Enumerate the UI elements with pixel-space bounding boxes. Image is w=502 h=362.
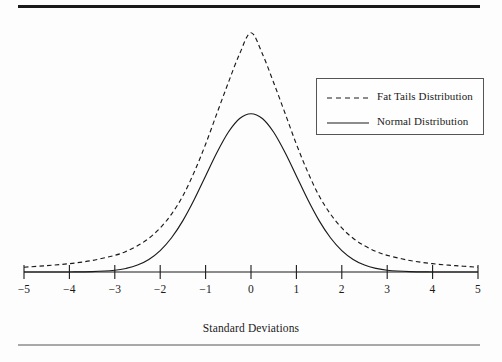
x-axis-tick-label: 1 bbox=[283, 283, 309, 295]
x-axis-tick-label: 0 bbox=[238, 283, 264, 295]
distribution-plot bbox=[0, 0, 502, 362]
legend-label-fat-tails: Fat Tails Distribution bbox=[377, 90, 473, 102]
x-axis-tick-label: 2 bbox=[329, 283, 355, 295]
legend-item: Fat Tails Distribution bbox=[317, 84, 485, 108]
legend-swatch-solid bbox=[326, 115, 370, 127]
x-axis-tick-label: −1 bbox=[193, 283, 219, 295]
curve-fat-tails-distribution bbox=[24, 33, 478, 268]
figure-container: −5−4−3−2−1012345 Standard Deviations Fat… bbox=[0, 0, 502, 362]
x-axis-tick-label: 5 bbox=[465, 283, 491, 295]
bottom-divider-rule bbox=[18, 344, 480, 346]
x-axis-tick-label: −2 bbox=[147, 283, 173, 295]
data-curves bbox=[24, 33, 478, 272]
legend-label-normal: Normal Distribution bbox=[377, 115, 468, 127]
curve-normal-distribution bbox=[24, 114, 478, 272]
legend-item: Normal Distribution bbox=[317, 109, 485, 133]
x-axis-tick-label: 4 bbox=[420, 283, 446, 295]
x-axis-tick-label: 3 bbox=[374, 283, 400, 295]
x-axis-tick-label: −5 bbox=[11, 283, 37, 295]
legend-swatch-dashed bbox=[326, 90, 370, 102]
x-axis-tick-label: −4 bbox=[56, 283, 82, 295]
chart-legend: Fat Tails Distribution Normal Distributi… bbox=[316, 78, 484, 135]
x-axis-tick-label: −3 bbox=[102, 283, 128, 295]
x-axis-title: Standard Deviations bbox=[0, 322, 502, 334]
